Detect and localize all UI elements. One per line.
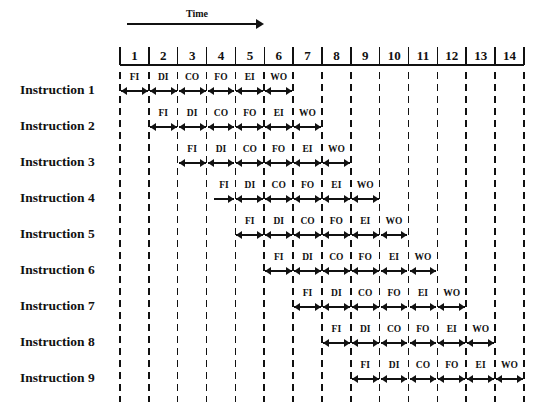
stage-co: CO <box>236 157 263 169</box>
arrow-right-icon <box>430 375 436 383</box>
stage-label: EI <box>323 180 350 190</box>
stage-co: CO <box>410 373 437 385</box>
arrow-right-icon <box>373 231 379 239</box>
arrow-right-icon <box>488 375 494 383</box>
arrow-left-icon <box>467 375 473 383</box>
arrow-right-icon <box>401 303 407 311</box>
stage-fo: FO <box>236 121 263 133</box>
arrow-left-icon <box>352 339 358 347</box>
arrow-right-icon <box>373 195 379 203</box>
arrow-left-icon <box>323 339 329 347</box>
stage-label: FI <box>121 72 148 82</box>
stage-fo: FO <box>438 373 465 385</box>
arrow-left-icon <box>150 123 156 131</box>
stage-wo: WO <box>381 229 408 241</box>
arrow-left-icon <box>179 159 185 167</box>
arrow-right-icon <box>228 123 234 131</box>
stage-co: CO <box>352 301 379 313</box>
stage-label: DI <box>179 108 206 118</box>
arrow-left-icon <box>438 375 444 383</box>
arrow-left-icon <box>323 159 329 167</box>
stage-di: DI <box>265 229 292 241</box>
stage-label: WO <box>438 288 465 298</box>
stage-di: DI <box>236 193 263 205</box>
arrow-right-icon <box>459 339 465 347</box>
stage-fi: FI <box>179 157 206 169</box>
stage-label: CO <box>381 324 408 334</box>
instruction-label: Instruction 7 <box>20 298 95 314</box>
arrow-right-icon <box>257 231 263 239</box>
arrow-left-icon <box>323 195 329 203</box>
cycle-number: 9 <box>351 47 380 65</box>
arrow-left-icon <box>294 303 300 311</box>
arrow-right-icon <box>430 267 436 275</box>
cycle-number: 11 <box>409 47 438 65</box>
cycle-number: 14 <box>495 47 524 65</box>
stage-label: EI <box>352 216 379 226</box>
instruction-label: Instruction 9 <box>20 370 95 386</box>
arrow-right-icon <box>315 267 321 275</box>
stage-di: DI <box>294 265 321 277</box>
instruction-label: Instruction 3 <box>20 154 95 170</box>
stage-label: WO <box>410 252 437 262</box>
arrow-left-icon <box>236 195 242 203</box>
arrow-right-icon <box>286 267 292 275</box>
arrow-right-icon <box>257 159 263 167</box>
arrow-right-icon <box>200 123 206 131</box>
arrow-left-icon <box>294 123 300 131</box>
arrow-right-icon <box>315 159 321 167</box>
instruction-label: Instruction 6 <box>20 262 95 278</box>
stage-label: WO <box>352 180 379 190</box>
arrow-right-icon <box>200 159 206 167</box>
stage-label: CO <box>352 288 379 298</box>
arrow-left-icon <box>467 339 473 347</box>
arrow-left-icon <box>265 87 271 95</box>
arrow-right-icon <box>401 231 407 239</box>
arrow-right-icon <box>430 339 436 347</box>
arrow-left-icon <box>208 159 214 167</box>
arrow-right-icon <box>286 231 292 239</box>
stage-label: CO <box>323 252 350 262</box>
stage-label: FI <box>265 252 292 262</box>
stage-label: DI <box>265 216 292 226</box>
instruction-label: Instruction 2 <box>20 118 95 134</box>
cycle-number: 2 <box>149 47 178 65</box>
stage-label: EI <box>236 72 263 82</box>
stage-label: FI <box>323 324 350 334</box>
stage-fo: FO <box>410 337 437 349</box>
arrow-right-icon <box>286 195 292 203</box>
instruction-label: Instruction 5 <box>20 226 95 242</box>
cycle-number: 3 <box>178 47 207 65</box>
stage-wo: WO <box>410 265 437 277</box>
stage-label: DI <box>352 324 379 334</box>
arrow-left-icon <box>381 375 387 383</box>
stage-fi: FI <box>214 193 235 205</box>
arrow-left-icon <box>121 87 127 95</box>
cycle-boundary-dashed-line <box>408 72 410 402</box>
stage-co: CO <box>208 121 235 133</box>
stage-di: DI <box>208 157 235 169</box>
stage-label: DI <box>236 180 263 190</box>
arrow-right-icon <box>228 195 234 203</box>
stage-fo: FO <box>265 157 292 169</box>
stage-label: FO <box>236 108 263 118</box>
stage-fo: FO <box>381 301 408 313</box>
arrow-right-icon <box>200 87 206 95</box>
stage-ei: EI <box>438 337 465 349</box>
arrow-right-icon <box>315 123 321 131</box>
arrow-left-icon <box>352 267 358 275</box>
arrow-left-icon <box>294 159 300 167</box>
stage-di: DI <box>352 337 379 349</box>
arrow-left-icon <box>265 195 271 203</box>
cycle-boundary-dashed-line <box>119 72 121 402</box>
arrow-left-icon <box>410 375 416 383</box>
cycle-number: 6 <box>264 47 293 65</box>
cycle-number: 12 <box>437 47 466 65</box>
stage-label: FI <box>150 108 177 118</box>
stage-di: DI <box>150 85 177 97</box>
arrow-left-icon <box>294 231 300 239</box>
arrow-left-icon <box>294 195 300 203</box>
arrow-right-icon <box>315 195 321 203</box>
stage-label: DI <box>150 72 177 82</box>
arrow-left-icon <box>410 303 416 311</box>
